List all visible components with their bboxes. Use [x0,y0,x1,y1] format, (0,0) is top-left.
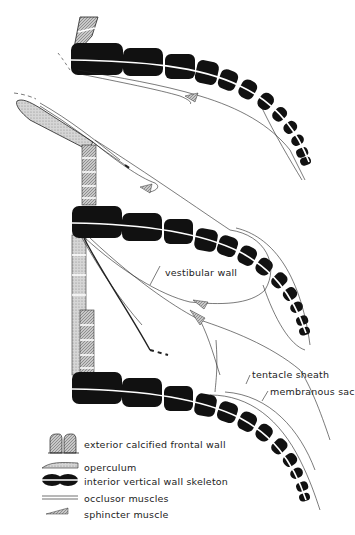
sphincter-upper [185,93,198,102]
legend-item-sphincter-muscle: sphincter muscle [78,506,169,522]
label-vestibular-wall: vestibular wall [165,267,237,278]
frontal-wall-column [72,145,96,380]
legend-item-occlusor-muscles: occlusor muscles [78,490,169,506]
label-membranous-sac: membranous sac [270,386,355,397]
operculum-middle [17,100,93,150]
legend-swatches [42,434,79,514]
frontal-wall-swatch-icon [48,434,79,453]
operculum-swatch-icon [42,463,78,468]
legend-item-frontal-wall: exterior calcified frontal wall [78,436,226,452]
sphincter-muscle-swatch-icon [46,508,68,514]
occlusor-muscles-middle [40,103,158,192]
occlusor-muscle-swatch-icon [42,496,78,499]
label-tentacle-sheath: tentacle sheath [252,369,329,380]
vertical-wall-swatch-icon [42,474,78,486]
legend-item-vertical-wall: interior vertical wall skeleton [78,473,228,489]
